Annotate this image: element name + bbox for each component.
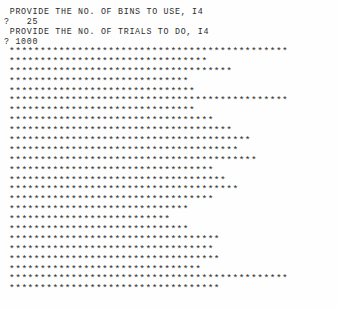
bins-answer-line: ? 25 bbox=[4, 17, 338, 27]
histogram-bar-row: ************************** bbox=[9, 215, 338, 225]
histogram-bar-row: *************************************** bbox=[9, 136, 338, 146]
trials-answer-line: ? 1000 bbox=[4, 37, 338, 47]
histogram-bar-row: ******************************** bbox=[9, 57, 338, 67]
histogram-bar-row: ***************************** bbox=[9, 225, 338, 235]
histogram-bar-row: ****************************************… bbox=[9, 96, 338, 106]
histogram-bar-row: ********************************* bbox=[9, 195, 338, 205]
histogram-bar-row: ********************************* bbox=[9, 116, 338, 126]
histogram-bar-row: ********************************** bbox=[9, 284, 338, 294]
histogram-bar-row: **************************************** bbox=[9, 156, 338, 166]
histogram-bar-row: *********************************** bbox=[9, 176, 338, 186]
histogram-bar-row: ***************************** bbox=[9, 205, 338, 215]
histogram-bar-row: ************************************ bbox=[9, 67, 338, 77]
histogram-bar-row: ********************************** bbox=[9, 235, 338, 245]
histogram-bar-row: ******************************* bbox=[9, 265, 338, 275]
histogram-chart: ****************************************… bbox=[0, 47, 338, 294]
histogram-bar-row: ****************************** bbox=[9, 106, 338, 116]
prompt-transcript: PROVIDE THE NO. OF BINS TO USE, I4 ? 25 … bbox=[0, 0, 338, 47]
histogram-bar-row: ************************************* bbox=[9, 146, 338, 156]
bins-prompt-line: PROVIDE THE NO. OF BINS TO USE, I4 bbox=[4, 7, 338, 17]
histogram-bar-row: ****************************** bbox=[9, 87, 338, 97]
histogram-bar-row: ****************************************… bbox=[9, 47, 338, 57]
histogram-bar-row: ********************************* bbox=[9, 245, 338, 255]
histogram-bar-row: ********************************** bbox=[9, 255, 338, 265]
trials-prompt-line: PROVIDE THE NO. OF TRIALS TO DO, I4 bbox=[4, 27, 338, 37]
histogram-bar-row: ********************************* bbox=[9, 166, 338, 176]
histogram-bar-row: ************************************* bbox=[9, 185, 338, 195]
histogram-bar-row: ***************************** bbox=[9, 77, 338, 87]
teletype-output-area: PROVIDE THE NO. OF BINS TO USE, I4 ? 25 … bbox=[0, 0, 338, 310]
histogram-bar-row: ****************************************… bbox=[9, 274, 338, 284]
histogram-bar-row: ************************************ bbox=[9, 126, 338, 136]
